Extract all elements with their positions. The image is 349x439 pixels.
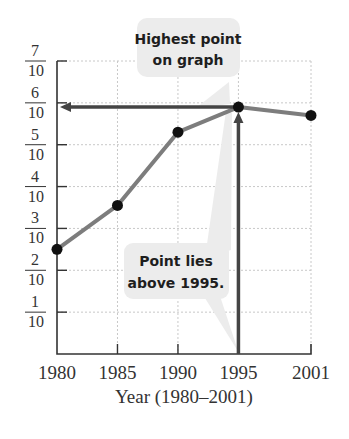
y-tick-denominator: 10	[28, 188, 44, 205]
callout-text-point: Point lies	[139, 253, 213, 269]
y-tick-denominator: 10	[28, 104, 44, 121]
x-axis-labels: 19801985199019952001	[38, 362, 330, 383]
x-tick-label: 2001	[292, 362, 330, 383]
grid-lines	[57, 61, 311, 354]
callout-pointer	[196, 82, 230, 108]
callout-highest-point	[137, 18, 240, 77]
x-axis-title: Year (1980–2001)	[115, 386, 253, 408]
y-tick-numerator: 6	[31, 84, 39, 101]
data-points	[52, 102, 317, 255]
x-tick-label: 1985	[98, 362, 136, 383]
x-tick-label: 1980	[38, 362, 76, 383]
x-tick-label: 1995	[219, 362, 257, 383]
y-axis-labels: 110210310410510610710	[25, 42, 46, 330]
y-tick-denominator: 10	[28, 62, 44, 79]
axis-lines	[57, 61, 311, 354]
y-tick-denominator: 10	[28, 146, 44, 163]
y-tick-numerator: 1	[31, 293, 39, 310]
data-point	[233, 102, 244, 113]
arrow-head-up-icon	[233, 112, 243, 123]
y-tick-numerator: 3	[31, 209, 39, 226]
callout-pointer-down	[200, 290, 238, 352]
y-tick-denominator: 10	[28, 313, 44, 330]
y-tick-numerator: 4	[31, 168, 39, 185]
callout-text-highest: on graph	[153, 52, 224, 68]
line-chart: Highest pointon graphPoint liesabove 199…	[0, 0, 349, 439]
callout-pointer-up	[205, 111, 232, 258]
y-tick-numerator: 2	[31, 251, 39, 268]
callouts: Highest pointon graphPoint liesabove 199…	[124, 18, 242, 352]
y-tick-numerator: 7	[31, 42, 39, 59]
callout-text-point: above 1995.	[128, 275, 225, 291]
data-series	[57, 107, 311, 249]
data-point	[306, 110, 317, 121]
y-tick-denominator: 10	[28, 229, 44, 246]
y-tick-numerator: 5	[31, 126, 39, 143]
x-tick-label: 1990	[159, 362, 197, 383]
axes	[57, 61, 311, 354]
y-tick-denominator: 10	[28, 271, 44, 288]
callout-text-highest: Highest point	[135, 31, 242, 47]
data-point	[112, 200, 123, 211]
series-line	[57, 107, 311, 249]
data-point	[172, 127, 183, 138]
data-point	[52, 244, 63, 255]
